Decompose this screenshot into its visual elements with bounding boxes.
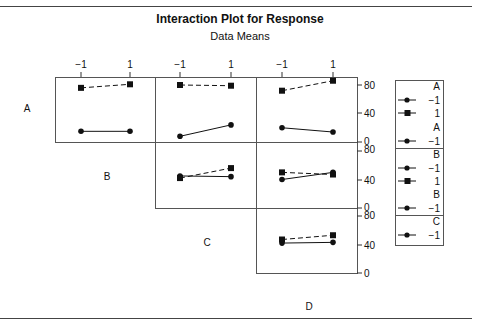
legend-title-A: A <box>433 122 440 133</box>
circle-marker-icon <box>330 240 336 246</box>
legend-entry-label: −1 <box>429 136 441 147</box>
series-line <box>282 235 333 239</box>
circle-marker-icon <box>404 205 409 210</box>
x-tick-label: −1 <box>276 59 288 70</box>
series-line <box>180 85 231 86</box>
series-layer <box>78 78 336 246</box>
x-tick-label: −1 <box>174 59 186 70</box>
square-marker-icon <box>177 175 183 181</box>
panel-A-D <box>257 78 358 143</box>
circle-marker-icon <box>228 122 234 128</box>
series-line <box>282 81 333 91</box>
circle-marker-icon <box>404 232 409 237</box>
circle-marker-icon <box>404 97 409 102</box>
circle-marker-icon <box>78 129 84 135</box>
y-tick-label: 40 <box>364 108 376 119</box>
x-tick-label: 1 <box>330 59 336 70</box>
row-label-B: B <box>104 171 111 182</box>
square-marker-icon <box>405 110 411 116</box>
legend-entry-label: −1 <box>429 203 441 214</box>
x-tick-label: 1 <box>127 59 133 70</box>
legend-entry-label: 1 <box>434 176 440 187</box>
circle-marker-icon <box>404 165 409 170</box>
y-tick-label: 80 <box>364 80 376 91</box>
square-marker-icon <box>78 85 84 91</box>
square-marker-icon <box>228 165 234 171</box>
row-label-C: C <box>203 237 210 248</box>
panel-A-B <box>56 78 156 143</box>
circle-marker-icon <box>177 134 183 140</box>
legend-title-A: A <box>433 81 440 92</box>
square-marker-icon <box>279 169 285 175</box>
y-tick-label: 40 <box>364 175 376 186</box>
square-marker-icon <box>228 83 234 89</box>
square-marker-icon <box>127 81 133 87</box>
legend-title-B: B <box>433 149 440 160</box>
series-line <box>180 125 231 136</box>
square-marker-icon <box>279 237 285 243</box>
series-line <box>282 128 333 132</box>
legend-entry-label: −1 <box>429 230 441 241</box>
panel-C-D <box>257 209 358 274</box>
square-marker-icon <box>177 82 183 88</box>
series-line <box>180 176 231 177</box>
y-tick-label: 80 <box>364 210 376 221</box>
square-marker-icon <box>330 232 336 238</box>
circle-marker-icon <box>279 125 285 131</box>
series-line <box>81 84 130 88</box>
square-marker-icon <box>279 88 285 94</box>
panel-A-C <box>156 78 257 143</box>
circle-marker-icon <box>404 138 409 143</box>
y-tick-label: 80 <box>364 144 376 155</box>
row-label-A: A <box>24 103 31 114</box>
legend-title-C: C <box>433 216 440 227</box>
y-tick-label: 0 <box>364 268 370 279</box>
interaction-plot-matrix: −1 1 −1 1 −1 1 80 40 0 80 40 0 80 40 0 A… <box>0 0 480 333</box>
panel-B-C <box>156 143 257 209</box>
circle-marker-icon <box>279 177 285 183</box>
x-tick-label: 1 <box>228 59 234 70</box>
legend-entry-label: −1 <box>429 95 441 106</box>
square-marker-icon <box>405 178 411 184</box>
square-marker-icon <box>330 172 336 178</box>
series-line <box>282 242 333 243</box>
legend-entry-label: −1 <box>429 163 441 174</box>
y-tick-label: 40 <box>364 240 376 251</box>
x-tick-label: −1 <box>75 59 87 70</box>
circle-marker-icon <box>330 129 336 135</box>
legend-entry-label: 1 <box>434 108 440 119</box>
circle-marker-icon <box>127 129 133 135</box>
square-marker-icon <box>330 78 336 84</box>
x-ticks <box>81 72 333 77</box>
circle-marker-icon <box>228 174 234 180</box>
col-label-D: D <box>305 301 312 312</box>
legend: A −1 1 A −1 B −1 1 B −1 C −1 <box>396 81 444 246</box>
legend-title-B: B <box>433 189 440 200</box>
panel-B-D <box>257 143 358 209</box>
